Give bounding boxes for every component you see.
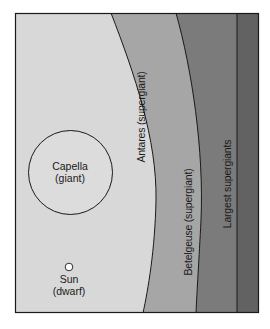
largest-supergiants-label: Largest supergiants [221, 140, 233, 228]
sun-class: (dwarf) [53, 285, 86, 297]
betelgeuse-label: Betelgeuse (supergiant) [182, 169, 194, 276]
capella-label: Capella (giant) [52, 160, 88, 184]
sun-name: Sun [53, 273, 86, 285]
antares-label: Antares (supergiant) [135, 71, 147, 162]
sun-label: Sun (dwarf) [53, 273, 86, 297]
capella-name: Capella [52, 160, 88, 172]
sun-circle [65, 263, 73, 271]
capella-class: (giant) [52, 172, 88, 184]
